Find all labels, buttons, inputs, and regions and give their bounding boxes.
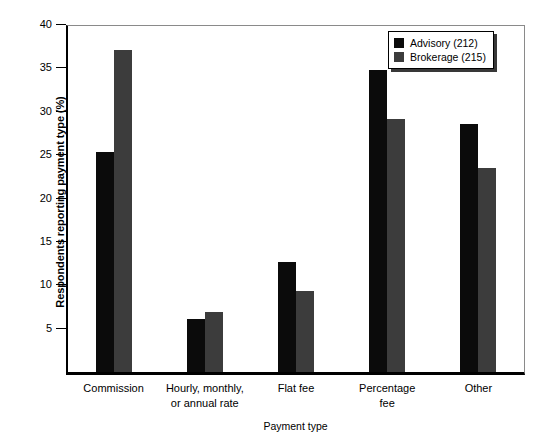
bar-advisory: [96, 152, 114, 372]
bar-group: [187, 25, 223, 372]
y-tick-label: 40: [16, 17, 52, 32]
y-tick-mark: [56, 284, 66, 285]
bar-advisory: [460, 124, 478, 372]
legend-label: Brokerage (215): [410, 51, 486, 63]
y-tick-mark: [56, 241, 66, 242]
bar-group: [460, 25, 496, 372]
x-axis-title: Payment type: [66, 420, 525, 432]
y-tick-mark: [56, 328, 66, 329]
y-axis-title: Respondents reporting payment type (%): [54, 52, 66, 352]
y-tick-label: 30: [16, 104, 52, 119]
chart-legend: Advisory (212)Brokerage (215): [388, 31, 494, 69]
bar-brokerage: [114, 50, 132, 372]
bar-group: [278, 25, 314, 372]
legend-item: Advisory (212): [394, 36, 486, 50]
bar-advisory: [187, 319, 205, 372]
y-tick-mark: [56, 198, 66, 199]
y-tick-label: 5: [16, 321, 52, 336]
y-tick-label: 10: [16, 277, 52, 292]
y-tick-label: 20: [16, 191, 52, 206]
bar-brokerage: [205, 312, 223, 372]
y-tick-mark: [56, 67, 66, 68]
y-tick-label: 15: [16, 234, 52, 249]
y-tick-label: 25: [16, 147, 52, 162]
bar-group: [369, 25, 405, 372]
bar-brokerage: [478, 168, 496, 372]
bars-layer: [68, 25, 524, 372]
y-tick-label: 35: [16, 60, 52, 75]
legend-swatch-icon: [394, 52, 404, 62]
y-tick-mark: [56, 111, 66, 112]
bar-group: [96, 25, 132, 372]
x-axis-tick-labels: CommissionHourly, monthly, or annual rat…: [66, 381, 525, 421]
legend-label: Advisory (212): [410, 37, 478, 49]
legend-swatch-icon: [394, 38, 404, 48]
x-tick-label: Other: [418, 381, 538, 396]
y-tick-mark: [56, 154, 66, 155]
y-tick-mark: [56, 24, 66, 25]
bar-brokerage: [387, 119, 405, 372]
bar-brokerage: [296, 291, 314, 372]
bar-chart: Respondents reporting payment type (%) 5…: [0, 0, 545, 439]
bar-advisory: [369, 70, 387, 372]
legend-item: Brokerage (215): [394, 50, 486, 64]
bar-advisory: [278, 262, 296, 372]
